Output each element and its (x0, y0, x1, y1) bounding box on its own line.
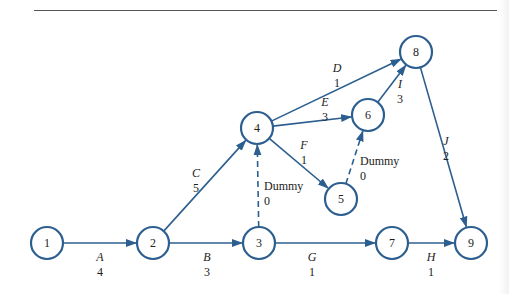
activity-duration: 3 (397, 92, 403, 106)
activity-duration: 3 (204, 265, 210, 279)
edge-label-h-7-9: H1 (426, 250, 437, 279)
activity-name: C (192, 166, 201, 180)
node-9: 9 (455, 227, 487, 259)
activity-duration: 1 (334, 76, 340, 90)
activity-name: Dummy (360, 154, 399, 168)
activity-name: A (95, 250, 104, 264)
activity-name: G (308, 250, 317, 264)
activity-duration: 2 (443, 149, 449, 163)
activity-name: Dummy (264, 179, 303, 193)
project-network-diagram: 123456789 A4B3C5Dummy0D1E3F1Dummy0I3J2G1… (0, 0, 509, 294)
edge-label-i-6-8: I3 (397, 77, 403, 106)
activity-name: D (332, 61, 342, 75)
node-3: 3 (243, 227, 275, 259)
activity-duration: 0 (360, 169, 366, 183)
edge-label-a-1-2: A4 (95, 250, 104, 279)
node-label: 9 (468, 236, 474, 250)
activity-duration: 4 (97, 265, 103, 279)
node-label: 7 (389, 236, 395, 250)
node-5: 5 (325, 183, 357, 215)
edges-layer (63, 59, 466, 243)
edge-label-dummy-3-4: Dummy0 (264, 179, 303, 208)
node-label: 8 (413, 45, 419, 59)
edge-4-6-arrow (273, 117, 351, 126)
node-label: 4 (254, 121, 260, 135)
node-4: 4 (241, 112, 273, 144)
edge-label-b-2-3: B3 (203, 250, 211, 279)
activity-duration: 1 (309, 265, 315, 279)
activity-name: J (443, 134, 449, 148)
activity-name: I (397, 77, 403, 91)
activity-name: E (320, 95, 329, 109)
node-label: 5 (338, 192, 344, 206)
node-label: 6 (365, 108, 371, 122)
node-label: 3 (256, 236, 262, 250)
activity-name: H (426, 250, 437, 264)
activity-duration: 1 (301, 153, 307, 167)
edge-label-j-8-9: J2 (443, 134, 449, 163)
activity-duration: 3 (322, 110, 328, 124)
node-6: 6 (352, 99, 384, 131)
node-1: 1 (31, 227, 63, 259)
activity-duration: 5 (193, 181, 199, 195)
node-label: 1 (44, 236, 50, 250)
edge-label-f-4-5: F1 (299, 138, 308, 167)
activity-name: F (299, 138, 308, 152)
edge-label-dummy-5-6: Dummy0 (360, 154, 399, 183)
edge-label-d-4-8: D1 (332, 61, 342, 90)
activity-duration: 0 (264, 194, 270, 208)
activity-name: B (203, 250, 211, 264)
edge-label-e-4-6: E3 (320, 95, 329, 124)
edge-2-4-arrow (164, 141, 246, 232)
node-8: 8 (400, 36, 432, 68)
node-7: 7 (376, 227, 408, 259)
activity-duration: 1 (428, 265, 434, 279)
edge-label-g-3-7: G1 (308, 250, 317, 279)
node-2: 2 (137, 227, 169, 259)
node-label: 2 (150, 236, 156, 250)
edge-3-4-arrow (257, 145, 258, 227)
